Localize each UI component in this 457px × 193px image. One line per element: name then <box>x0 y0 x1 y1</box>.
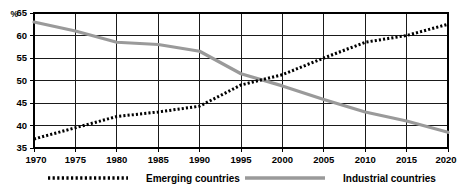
y-axis-unit-label: % <box>10 9 18 19</box>
x-axis-tick-label: 2020 <box>435 154 456 165</box>
y-axis-tick-label: 40 <box>16 120 27 131</box>
y-axis-tick-labels: 35404550556065 <box>16 7 27 153</box>
x-axis-tick-label: 1995 <box>230 154 252 165</box>
y-axis-tick-label: 45 <box>16 97 27 108</box>
legend-label-emerging-countries: Emerging countries <box>146 173 240 184</box>
x-axis-tick-label: 2000 <box>272 154 293 165</box>
x-axis-tick-label: 2010 <box>355 154 376 165</box>
x-axis-tick-label: 2015 <box>396 154 418 165</box>
chart-canvas: 35404550556065 % 19701975198019851990199… <box>0 0 457 193</box>
y-axis-tick-label: 35 <box>16 142 27 153</box>
y-axis-tick-label: 50 <box>16 75 27 86</box>
x-axis-tick-labels: 1970197519801985199019952000200520102015… <box>25 154 456 165</box>
x-axis-tick-label: 1980 <box>106 154 127 165</box>
x-axis-tick-label: 1975 <box>65 154 87 165</box>
x-axis-tick-label: 2005 <box>313 154 335 165</box>
x-axis-tick-label: 1990 <box>189 154 210 165</box>
y-axis-tick-label: 60 <box>16 30 27 41</box>
chart-legend: Emerging countries Industrial countries <box>48 173 436 184</box>
y-axis-tick-label: 65 <box>16 7 27 18</box>
y-axis-tick-label: 55 <box>16 52 27 63</box>
line-chart: 35404550556065 % 19701975198019851990199… <box>0 0 457 193</box>
x-axis-tick-label: 1985 <box>148 154 170 165</box>
x-axis-tick-label: 1970 <box>25 154 46 165</box>
legend-label-industrial-countries: Industrial countries <box>343 173 436 184</box>
x-axis-ticks <box>34 148 448 152</box>
